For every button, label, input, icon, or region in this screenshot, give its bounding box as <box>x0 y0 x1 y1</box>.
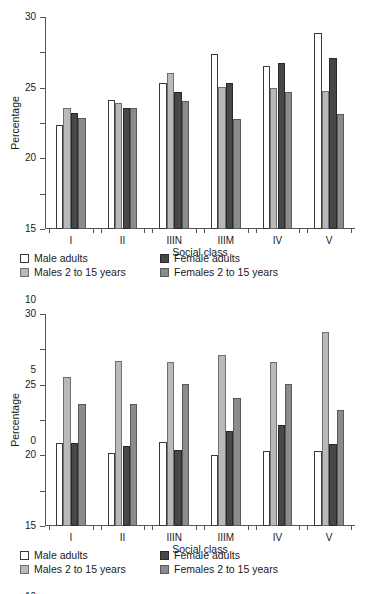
legend-item-female-adults: Female adults <box>160 549 240 561</box>
legend-item-males-2-15: Males 2 to 15 years <box>20 563 160 575</box>
y-axis-tick: 30 <box>40 17 45 18</box>
legend-item-females-2-15: Females 2 to 15 years <box>160 266 278 278</box>
legend-swatch-females-2-15 <box>160 565 169 574</box>
x-axis-category-label: II <box>120 235 126 246</box>
bar <box>71 443 78 526</box>
y-axis-title: Percentage <box>8 314 22 526</box>
x-axis-tick <box>101 229 102 233</box>
y-axis-tick: 10 <box>40 455 45 456</box>
legend-swatch-female-adults <box>160 254 169 263</box>
bar <box>78 404 85 526</box>
x-axis-tick <box>204 526 205 530</box>
y-axis-tick-label: 25 <box>25 83 36 93</box>
plot-area-top: 051015202530IIIIIINIIIMIVV <box>45 17 355 229</box>
bar <box>278 63 285 229</box>
bar <box>211 455 218 526</box>
y-axis-tick: 5 <box>40 194 45 195</box>
x-axis-category-label: I <box>69 235 72 246</box>
bar <box>115 361 122 526</box>
x-axis-tick <box>351 526 352 530</box>
bar <box>263 451 270 526</box>
bar <box>56 443 63 526</box>
bar <box>263 66 270 229</box>
x-axis-category-label: IV <box>273 532 282 543</box>
y-axis-tick-label: 15 <box>25 521 36 531</box>
x-axis-category-label: V <box>326 532 333 543</box>
bar <box>123 108 130 229</box>
x-axis-tick <box>204 229 205 233</box>
y-axis-tick: 20 <box>40 88 45 89</box>
plot-area-bottom: 051015202530IIIIIINIIIMIVV <box>45 314 355 526</box>
bar <box>130 404 137 526</box>
x-axis-tick <box>248 229 249 233</box>
bar <box>322 332 329 526</box>
y-axis-tick-label: 15 <box>25 224 36 234</box>
x-axis-category-label: II <box>120 532 126 543</box>
bar <box>337 410 344 526</box>
legend-swatch-males-2-15 <box>20 268 29 277</box>
y-axis-tick: 25 <box>40 52 45 53</box>
x-axis-category-label: I <box>69 532 72 543</box>
bar <box>329 58 336 229</box>
bar <box>174 450 181 526</box>
x-axis-tick <box>256 229 257 233</box>
bar <box>63 377 70 526</box>
y-axis-tick-label: 25 <box>25 380 36 390</box>
bar <box>285 92 292 229</box>
legend-label-male-adults: Male adults <box>34 549 88 561</box>
legend-swatch-female-adults <box>160 551 169 560</box>
y-axis-tick: 0 <box>40 229 45 230</box>
bar <box>159 83 166 229</box>
y-axis-tick-label: 30 <box>25 12 36 22</box>
x-axis-category-label: V <box>326 235 333 246</box>
x-axis-category-label: IIIM <box>217 532 234 543</box>
bar <box>108 100 115 229</box>
bar <box>226 83 233 229</box>
chart-page: Percentage 051015202530IIIIIINIIIMIVV So… <box>0 0 378 594</box>
legend-item-male-adults: Male adults <box>20 549 160 561</box>
x-axis-category-label: IV <box>273 235 282 246</box>
legend-swatch-females-2-15 <box>160 268 169 277</box>
y-axis-tick: 5 <box>40 491 45 492</box>
bar <box>167 362 174 526</box>
bar <box>270 362 277 526</box>
legend-item-females-2-15: Females 2 to 15 years <box>160 563 278 575</box>
x-axis-category-label: IIIM <box>217 235 234 246</box>
legend-row-1: Male adults Female adults <box>20 548 360 562</box>
bar <box>182 384 189 526</box>
x-axis-tick <box>307 526 308 530</box>
legend-label-females-2-15: Females 2 to 15 years <box>174 563 278 575</box>
x-axis-tick <box>49 229 50 233</box>
y-axis-line <box>45 17 46 229</box>
bar <box>270 88 277 229</box>
legend-label-female-adults: Female adults <box>174 549 240 561</box>
x-axis-line <box>45 228 355 229</box>
x-axis-tick <box>144 229 145 233</box>
chart-bottom: Percentage 051015202530IIIIIINIIIMIVV So… <box>0 297 378 594</box>
bar <box>233 398 240 526</box>
x-axis-tick <box>196 526 197 530</box>
bar <box>314 33 321 229</box>
y-axis-title-label: Percentage <box>9 393 21 447</box>
x-axis-tick <box>299 526 300 530</box>
x-axis-tick <box>93 229 94 233</box>
legend-bottom: Male adults Female adults Males 2 to 15 … <box>20 548 360 576</box>
y-axis-tick-label: 30 <box>25 309 36 319</box>
bar <box>159 442 166 526</box>
x-axis-tick <box>49 526 50 530</box>
bar <box>218 87 225 229</box>
bar <box>218 355 225 526</box>
x-axis-tick <box>256 526 257 530</box>
legend-label-male-adults: Male adults <box>34 252 88 264</box>
bar <box>108 453 115 526</box>
legend-swatch-males-2-15 <box>20 565 29 574</box>
bar <box>115 103 122 229</box>
x-axis-category-label: IIIN <box>166 532 182 543</box>
x-axis-tick <box>144 526 145 530</box>
bar <box>278 425 285 526</box>
legend-item-female-adults: Female adults <box>160 252 240 264</box>
bar <box>78 118 85 229</box>
y-axis-tick: 15 <box>40 420 45 421</box>
legend-label-males-2-15: Males 2 to 15 years <box>34 563 126 575</box>
legend-item-males-2-15: Males 2 to 15 years <box>20 266 160 278</box>
